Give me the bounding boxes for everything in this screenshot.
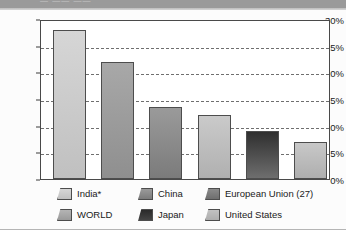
bar-european-union-27 [246,131,279,179]
plot-wrapper: 0%5%10%15%20%25%30% [0,10,346,188]
legend-label: Japan [158,209,184,221]
bar-india [53,30,86,179]
legend-swatch-icon [138,209,153,221]
legend-swatch-icon [57,188,72,200]
legend-swatch-icon [57,209,72,221]
chart-frame: 0%5%10%15%20%25%30% India*ChinaEuropean … [0,10,346,230]
legend-row: India*ChinaEuropean Union (27) [0,188,346,207]
legend-label: India* [77,188,101,200]
legend-label: United States [225,209,282,221]
top-band-text-remnant: — —— —— [40,0,91,5]
legend-swatch-icon [138,188,153,200]
bar-series [41,21,329,179]
legend-item-world[interactable]: WORLD [57,209,112,221]
legend-item-japan[interactable]: Japan [138,209,184,221]
legend-label: WORLD [77,209,112,221]
chart-figure: — —— —— 0%5%10%15%20%25%30% India*ChinaE… [0,0,346,230]
bar-world [101,62,134,179]
legend-row: WORLDJapanUnited States [0,209,346,228]
bar-china [149,107,182,179]
legend-item-china[interactable]: China [138,188,183,200]
legend-swatch-icon [205,209,220,221]
bar-japan [198,115,231,179]
legend-label: European Union (27) [225,188,313,200]
legend-item-european-union-27[interactable]: European Union (27) [205,188,313,200]
legend-swatch-icon [205,188,220,200]
plot-area [40,20,330,180]
legend-item-india[interactable]: India* [57,188,101,200]
legend-label: China [158,188,183,200]
chart-legend: India*ChinaEuropean Union (27)WORLDJapan… [0,186,346,230]
bar-united-states [294,142,327,179]
legend-item-united-states[interactable]: United States [205,209,282,221]
